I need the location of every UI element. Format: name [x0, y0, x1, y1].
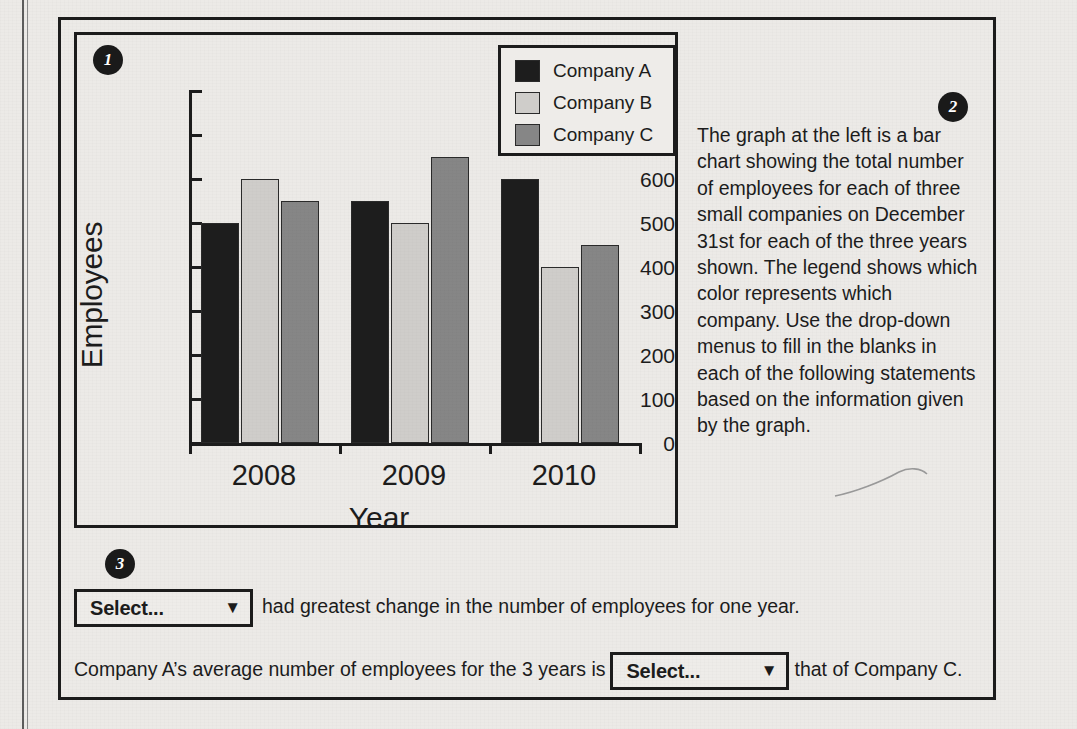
- dropdown-company-greatest-change[interactable]: Select... ▼: [74, 589, 253, 627]
- statement-two-text-before: Company A’s average number of employees …: [74, 658, 605, 680]
- bar-chart-panel: Employees 0100200300400500600700800 2008…: [74, 32, 678, 528]
- legend-swatch-icon: [515, 60, 540, 82]
- legend-item-company-b: Company B: [515, 87, 673, 119]
- instructions-paragraph: The graph at the left is a bar chart sho…: [697, 122, 979, 439]
- bar-company-b-2010: [541, 267, 579, 443]
- bar-company-b-2008: [241, 179, 279, 443]
- chart-y-axis-label: Employees: [75, 185, 109, 405]
- statement-one-text: had greatest change in the number of emp…: [262, 595, 800, 617]
- y-tick-label: 0: [615, 432, 675, 456]
- page-canvas: Employees 0100200300400500600700800 2008…: [0, 0, 1077, 729]
- chevron-down-icon: ▼: [761, 661, 778, 681]
- legend-item-company-a: Company A: [515, 55, 673, 87]
- bar-company-b-2009: [391, 223, 429, 443]
- statement-one: Select... ▼ had greatest change in the n…: [74, 589, 954, 627]
- legend-swatch-icon: [515, 92, 540, 114]
- bar-company-a-2009: [351, 201, 389, 443]
- x-tick-label-2009: 2009: [334, 459, 494, 492]
- legend-label: Company B: [553, 92, 652, 114]
- dropdown-selected-value: Select...: [626, 660, 700, 683]
- y-tick-label: 600: [615, 168, 675, 192]
- callout-badge-1: 1: [93, 45, 123, 75]
- callout-badge-3: 3: [105, 549, 135, 579]
- chart-x-axis-label: Year: [77, 501, 681, 535]
- y-tick-mark: [189, 134, 202, 137]
- chevron-down-icon: ▼: [224, 598, 241, 618]
- page-margin-rule-secondary: [27, 0, 28, 729]
- x-tick-mark: [489, 443, 492, 454]
- y-tick-label: 200: [615, 344, 675, 368]
- dropdown-average-comparison[interactable]: Select... ▼: [610, 652, 789, 690]
- x-tick-mark: [639, 443, 642, 454]
- y-tick-mark: [189, 90, 202, 93]
- chart-x-axis-line: [189, 443, 639, 446]
- callout-badge-2: 2: [938, 92, 968, 122]
- statement-two-text-after: that of Company C.: [794, 658, 962, 680]
- statement-two: Company A’s average number of employees …: [74, 652, 974, 690]
- dropdown-selected-value: Select...: [90, 597, 164, 620]
- x-tick-mark: [339, 443, 342, 454]
- bar-company-a-2010: [501, 179, 539, 443]
- legend-label: Company C: [553, 124, 653, 146]
- bar-company-c-2008: [281, 201, 319, 443]
- y-tick-mark: [189, 178, 202, 181]
- legend-item-company-c: Company C: [515, 119, 673, 151]
- page-margin-rule: [22, 0, 24, 729]
- bar-company-a-2008: [201, 223, 239, 443]
- x-tick-label-2008: 2008: [184, 459, 344, 492]
- y-tick-label: 500: [615, 212, 675, 236]
- legend-label: Company A: [553, 60, 651, 82]
- y-tick-label: 300: [615, 300, 675, 324]
- y-tick-label: 400: [615, 256, 675, 280]
- bar-company-c-2010: [581, 245, 619, 443]
- bar-company-c-2009: [431, 157, 469, 443]
- y-tick-label: 100: [615, 388, 675, 412]
- x-tick-label-2010: 2010: [484, 459, 644, 492]
- legend-swatch-icon: [515, 124, 540, 146]
- chart-legend: Company ACompany BCompany C: [498, 45, 676, 156]
- x-tick-mark: [189, 443, 192, 454]
